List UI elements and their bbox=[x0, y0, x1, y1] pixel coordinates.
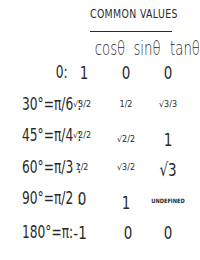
cos-value: 1 bbox=[69, 62, 99, 83]
title-underline bbox=[90, 31, 172, 32]
header-cos: cosθ bbox=[93, 37, 128, 59]
cos-value: 0 bbox=[67, 188, 97, 209]
page-title: COMMON VALUES bbox=[90, 6, 150, 21]
header-sin: sinθ bbox=[130, 37, 165, 59]
header-tan: tanθ bbox=[168, 37, 200, 59]
sin-value: √3/2 bbox=[106, 163, 146, 172]
sin-value: √2/2 bbox=[106, 135, 146, 144]
table-row: 45°=π/4 : √2/2 √2/2 1 bbox=[0, 125, 199, 155]
cos-value: √3/2 bbox=[62, 100, 102, 109]
table-row: 60°=π/3 : 1/2 √3/2 √3 bbox=[0, 157, 199, 187]
tan-value: √3 bbox=[153, 159, 183, 180]
sin-value: 1/2 bbox=[106, 100, 146, 109]
cos-value: -1 bbox=[65, 222, 95, 243]
angle-label: 0: bbox=[56, 62, 68, 82]
table-row: 180°=π: -1 0 0 bbox=[0, 222, 199, 252]
tan-value: 0 bbox=[153, 62, 183, 83]
tan-value: UNDEFINED bbox=[151, 197, 185, 204]
sin-value: 0 bbox=[111, 62, 141, 83]
table-row: 90°=π/2 : 0 1 UNDEFINED bbox=[0, 188, 199, 218]
table-row: 30°=π/6 : √3/2 1/2 √3/3 bbox=[0, 94, 199, 124]
cos-value: √2/2 bbox=[62, 131, 102, 140]
sin-value: 1 bbox=[111, 192, 141, 213]
tan-value: 0 bbox=[153, 222, 183, 243]
tan-value: 1 bbox=[153, 129, 183, 150]
tan-value: √3/3 bbox=[148, 100, 188, 109]
cos-value: 1/2 bbox=[62, 163, 102, 172]
sin-value: 0 bbox=[113, 222, 143, 243]
table-row: 0: 1 0 0 bbox=[0, 62, 199, 92]
